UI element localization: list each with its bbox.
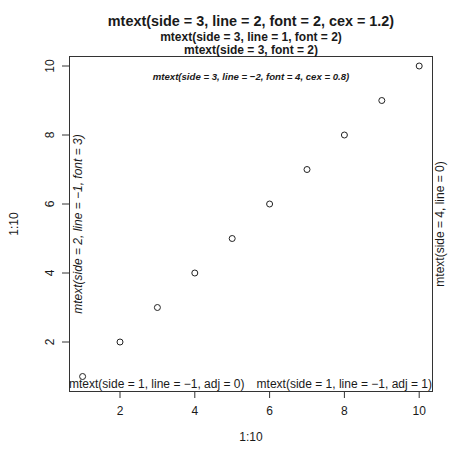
- data-point: [341, 132, 347, 138]
- x-axis-label: 1:10: [239, 430, 263, 444]
- y-tick-label: 2: [43, 338, 57, 345]
- x-tick-label: 6: [266, 404, 273, 418]
- mtext-top-inner: mtext(side = 3, line = −2, font = 4, cex…: [153, 71, 350, 82]
- x-tick-label: 2: [117, 404, 124, 418]
- y-tick-label: 4: [43, 269, 57, 276]
- x-axis: [120, 391, 419, 398]
- mtext-top-line2: mtext(side = 3, line = 2, font = 2, cex …: [108, 13, 395, 29]
- data-point: [117, 339, 123, 345]
- scatter-chart: 2 4 6 8 10 2 4 6 8 10 1:10 1:10 mtext(si…: [0, 0, 466, 457]
- mtext-bottom-right: mtext(side = 1, line = −1, adj = 1): [257, 377, 432, 391]
- mtext-top-line0: mtext(side = 3, font = 2): [184, 43, 318, 57]
- x-tick-label: 8: [341, 404, 348, 418]
- data-point: [229, 236, 235, 242]
- data-point: [304, 167, 310, 173]
- data-point: [192, 270, 198, 276]
- data-point: [267, 201, 273, 207]
- data-point: [154, 305, 160, 311]
- mtext-left-inner: mtext(side = 2, line = −1, font = 3): [71, 134, 85, 313]
- y-tick-label: 8: [43, 131, 57, 138]
- data-point: [416, 63, 422, 69]
- data-points: [80, 63, 423, 380]
- data-point: [379, 98, 385, 104]
- x-tick-label: 4: [191, 404, 198, 418]
- y-axis-label: 1:10: [7, 212, 21, 236]
- mtext-top-line1: mtext(side = 3, line = 1, font = 2): [160, 30, 342, 44]
- mtext-bottom-left: mtext(side = 1, line = −1, adj = 0): [69, 377, 244, 391]
- y-tick-label: 6: [43, 200, 57, 207]
- x-tick-labels: 2 4 6 8 10: [117, 404, 427, 418]
- y-tick-labels: 2 4 6 8 10: [43, 59, 57, 345]
- y-axis: [62, 66, 70, 342]
- y-tick-label: 10: [43, 59, 57, 73]
- x-tick-label: 10: [413, 404, 427, 418]
- plot-box: [70, 57, 433, 392]
- mtext-right: mtext(side = 4, line = 0): [433, 161, 447, 286]
